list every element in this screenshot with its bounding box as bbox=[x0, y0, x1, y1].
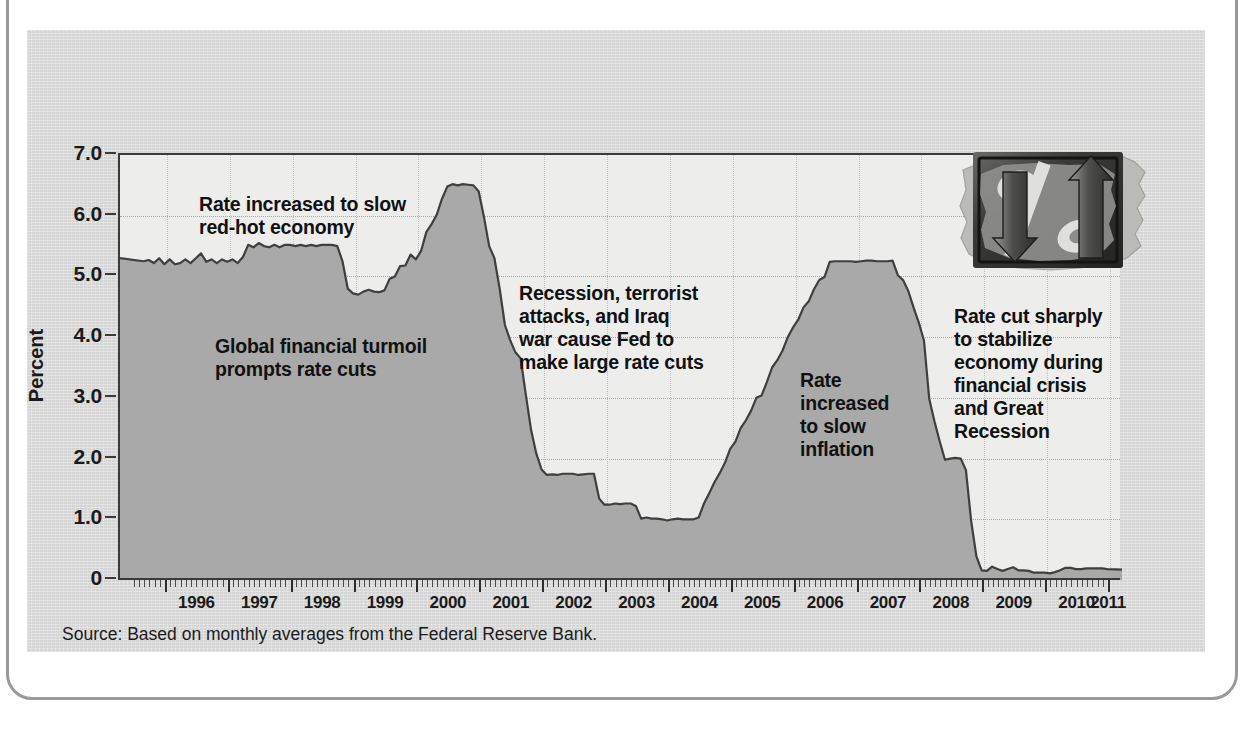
x-minor-tick bbox=[715, 580, 716, 587]
x-minor-tick bbox=[474, 580, 475, 587]
x-minor-tick bbox=[825, 580, 826, 587]
x-minor-tick bbox=[296, 580, 297, 587]
x-minor-tick bbox=[390, 580, 391, 587]
x-minor-tick bbox=[909, 580, 910, 587]
x-minor-tick bbox=[196, 580, 197, 587]
x-minor-tick bbox=[574, 580, 575, 587]
x-minor-tick bbox=[380, 580, 381, 587]
x-minor-tick bbox=[741, 580, 742, 587]
y-tick-label-3.0: 3.0 bbox=[73, 384, 102, 408]
x-minor-tick bbox=[1056, 580, 1057, 587]
x-minor-tick bbox=[935, 580, 936, 587]
x-minor-tick bbox=[422, 580, 423, 587]
x-minor-tick bbox=[265, 580, 266, 587]
x-tick-label-2008: 2008 bbox=[933, 593, 970, 613]
x-major-tick-1996 bbox=[165, 580, 167, 592]
x-minor-tick bbox=[385, 580, 386, 587]
x-minor-tick bbox=[1082, 580, 1083, 587]
x-minor-tick bbox=[1003, 580, 1004, 587]
x-minor-tick bbox=[401, 580, 402, 587]
y-tick-mark-2.0 bbox=[105, 456, 116, 458]
x-minor-tick bbox=[149, 580, 150, 587]
x-minor-tick bbox=[134, 580, 135, 587]
x-minor-tick bbox=[1014, 580, 1015, 587]
x-minor-tick bbox=[637, 580, 638, 587]
x-minor-tick bbox=[437, 580, 438, 587]
x-minor-tick bbox=[961, 580, 962, 587]
x-minor-tick bbox=[563, 580, 564, 587]
x-minor-tick bbox=[652, 580, 653, 587]
x-major-tick-2003 bbox=[605, 580, 607, 592]
x-minor-tick bbox=[280, 580, 281, 587]
x-minor-tick bbox=[217, 580, 218, 587]
x-minor-tick bbox=[175, 580, 176, 587]
x-minor-tick bbox=[626, 580, 627, 587]
x-minor-tick bbox=[333, 580, 334, 587]
x-minor-tick bbox=[616, 580, 617, 587]
x-minor-tick bbox=[155, 580, 156, 587]
annotation-rate-increased-red-hot: Rate increased to slow red-hot economy bbox=[199, 193, 406, 239]
x-tick-label-1997: 1997 bbox=[241, 593, 278, 613]
y-tick-mark-6.0 bbox=[105, 213, 116, 215]
x-minor-tick bbox=[956, 580, 957, 587]
x-minor-tick bbox=[568, 580, 569, 587]
x-minor-tick bbox=[872, 580, 873, 587]
x-minor-tick bbox=[553, 580, 554, 587]
x-minor-tick bbox=[1077, 580, 1078, 587]
source-note: Source: Based on monthly averages from t… bbox=[62, 624, 597, 645]
x-minor-tick bbox=[1098, 580, 1099, 587]
annotation-recession-terrorist-iraq: Recession, terrorist attacks, and Iraq w… bbox=[519, 282, 704, 374]
x-minor-tick bbox=[322, 580, 323, 587]
x-minor-tick bbox=[547, 580, 548, 587]
x-minor-tick bbox=[202, 580, 203, 587]
y-tick-mark-1.0 bbox=[105, 516, 116, 518]
x-minor-tick bbox=[238, 580, 239, 587]
x-major-tick-1998 bbox=[291, 580, 293, 592]
x-minor-tick bbox=[778, 580, 779, 587]
x-minor-tick bbox=[1008, 580, 1009, 587]
x-minor-tick bbox=[720, 580, 721, 587]
percent-sign-us-map-logo bbox=[959, 134, 1149, 282]
x-minor-tick bbox=[233, 580, 234, 587]
x-minor-tick bbox=[610, 580, 611, 587]
x-minor-tick bbox=[317, 580, 318, 587]
x-minor-tick bbox=[584, 580, 585, 587]
y-tick-label-0: 0 bbox=[91, 566, 102, 590]
x-minor-tick bbox=[977, 580, 978, 587]
y-tick-label-2.0: 2.0 bbox=[73, 445, 102, 469]
x-minor-tick bbox=[516, 580, 517, 587]
x-minor-tick bbox=[1092, 580, 1093, 587]
x-minor-tick bbox=[458, 580, 459, 587]
y-tick-mark-3.0 bbox=[105, 395, 116, 397]
x-minor-tick bbox=[469, 580, 470, 587]
x-minor-tick bbox=[275, 580, 276, 587]
x-minor-tick bbox=[244, 580, 245, 587]
x-minor-tick bbox=[144, 580, 145, 587]
x-minor-tick bbox=[359, 580, 360, 587]
x-major-tick-2007 bbox=[857, 580, 859, 592]
x-minor-tick bbox=[443, 580, 444, 587]
x-minor-tick bbox=[595, 580, 596, 587]
x-minor-tick bbox=[1071, 580, 1072, 587]
x-minor-tick bbox=[673, 580, 674, 587]
x-minor-tick bbox=[1050, 580, 1051, 587]
x-tick-label-2000: 2000 bbox=[430, 593, 467, 613]
x-minor-tick bbox=[689, 580, 690, 587]
x-minor-tick bbox=[904, 580, 905, 587]
y-tick-mark-0 bbox=[105, 577, 116, 579]
x-minor-tick bbox=[181, 580, 182, 587]
x-minor-tick bbox=[846, 580, 847, 587]
y-tick-label-7.0: 7.0 bbox=[73, 141, 102, 165]
x-tick-label-2001: 2001 bbox=[492, 593, 529, 613]
x-minor-tick bbox=[710, 580, 711, 587]
x-major-tick-2009 bbox=[982, 580, 984, 592]
x-minor-tick bbox=[862, 580, 863, 587]
x-minor-tick bbox=[1024, 580, 1025, 587]
x-minor-tick bbox=[259, 580, 260, 587]
x-minor-tick bbox=[191, 580, 192, 587]
x-minor-tick bbox=[207, 580, 208, 587]
x-minor-tick bbox=[223, 580, 224, 587]
x-minor-tick bbox=[820, 580, 821, 587]
x-minor-tick bbox=[579, 580, 580, 587]
x-major-tick-1997 bbox=[228, 580, 230, 592]
